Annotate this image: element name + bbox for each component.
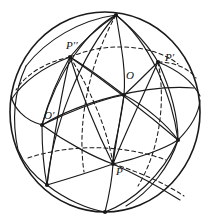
point-label-P1: P′ — [165, 52, 174, 63]
vertex-bottom-left — [45, 183, 49, 187]
sphere-figure: P′′P′OO′P — [0, 0, 212, 222]
vertex-O2 — [40, 123, 44, 127]
point-label-O: O — [126, 70, 134, 81]
sphere-diagram-canvas — [0, 0, 212, 222]
point-label-P: P — [116, 166, 123, 177]
vertex-P2 — [68, 55, 72, 59]
vertex-P — [111, 162, 115, 166]
vertex-P1 — [156, 60, 160, 64]
point-label-P2: P′′ — [66, 40, 78, 51]
point-label-O2: O′ — [44, 110, 54, 121]
vertex-top — [114, 13, 118, 17]
sphere-outline — [10, 12, 200, 212]
vertex-bottom — [103, 210, 107, 214]
vertex-right — [176, 138, 180, 142]
vertex-O — [122, 93, 126, 97]
